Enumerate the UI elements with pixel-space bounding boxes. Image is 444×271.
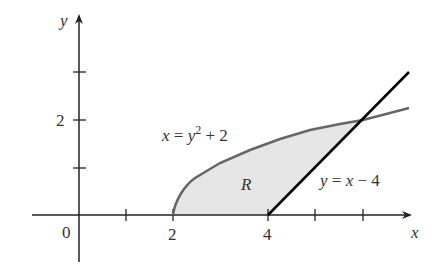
y-tick-label-2: 2 (56, 111, 65, 130)
y-axis-label: y (58, 11, 68, 30)
region-diagram: y x 0 2 4 2 R x = y2 + 2 y = x − 4 (0, 0, 444, 271)
x-tick-label-4: 4 (263, 225, 272, 244)
parabola-equation: x = y2 + 2 (161, 123, 228, 145)
x-tick-label-2: 2 (168, 225, 177, 244)
origin-label: 0 (62, 223, 71, 242)
line-equation: y = x − 4 (318, 171, 380, 190)
x-axis-label: x (410, 223, 419, 242)
region-label: R (240, 175, 252, 194)
